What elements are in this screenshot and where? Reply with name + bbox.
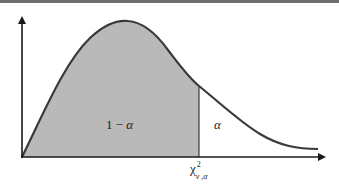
critical-value-base: χ [190, 161, 196, 176]
left-area-alpha: α [126, 117, 133, 132]
critical-value-label: χ2ν ,α [190, 162, 213, 179]
critical-value-superscript: 2 [197, 160, 201, 169]
left-area-prefix: 1 − [106, 117, 126, 132]
critical-value-subscript: ν ,α [196, 172, 208, 181]
left-area-label: 1 − α [106, 118, 133, 131]
shaded-area-1-minus-alpha [22, 21, 199, 157]
chi-square-diagram [0, 0, 339, 189]
right-tail-label: α [214, 118, 221, 131]
